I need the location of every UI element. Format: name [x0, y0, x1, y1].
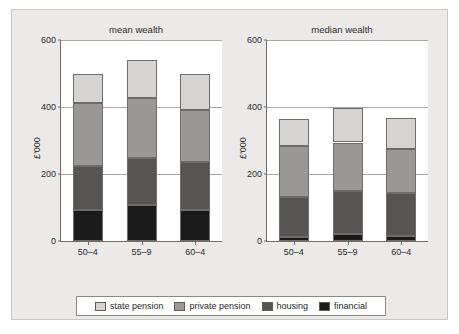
bar-stack [279, 40, 309, 241]
y-tick-label: 400 [41, 102, 56, 112]
legend-swatch-icon [174, 302, 185, 311]
bar-segment-state-pension [279, 119, 309, 146]
bar-segment-housing [386, 193, 416, 236]
bar-segment-state-pension [333, 108, 363, 143]
x-tick-mark [88, 241, 89, 245]
x-tick-mark [195, 241, 196, 245]
bar-stack [127, 40, 157, 241]
subplot-mean-wealth: mean wealth £'000 020040060050–455–960–4 [24, 22, 224, 274]
bar-segment-state-pension [127, 60, 157, 98]
legend-swatch-icon [262, 302, 273, 311]
x-tick-label: 55–9 [337, 247, 357, 257]
y-tick-label: 200 [247, 169, 262, 179]
legend-item[interactable]: housing [262, 301, 309, 311]
chart-figure: mean wealth £'000 020040060050–455–960–4… [11, 9, 448, 320]
y-tick-mark [264, 241, 268, 242]
bar-segment-private-pension [180, 110, 210, 162]
subplot-median-wealth: median wealth £'000 020040060050–455–960… [230, 22, 430, 274]
x-tick-label: 60–4 [391, 247, 411, 257]
bar-segment-private-pension [279, 146, 309, 198]
bar-stack [180, 40, 210, 241]
bar-segment-private-pension [127, 98, 157, 159]
x-tick-mark [348, 241, 349, 245]
y-tick-mark [58, 107, 62, 108]
y-axis-label-median: £'000 [238, 137, 248, 159]
bar-segment-state-pension [386, 118, 416, 149]
bar-segment-housing [73, 166, 103, 210]
legend-swatch-icon [319, 302, 330, 311]
legend-label: financial [334, 301, 367, 311]
plot-area-mean: 020040060050–455–960–4 [60, 40, 222, 242]
y-tick-mark [264, 107, 268, 108]
bar-segment-financial [127, 205, 157, 241]
bar-stack [73, 40, 103, 241]
y-tick-mark [264, 40, 268, 41]
bar-segment-financial [333, 234, 363, 241]
x-tick-label: 60–4 [185, 247, 205, 257]
bar-segment-private-pension [333, 143, 363, 192]
x-tick-mark [294, 241, 295, 245]
bar-segment-housing [127, 158, 157, 205]
legend-label: housing [277, 301, 309, 311]
y-tick-mark [264, 174, 268, 175]
legend-label: private pension [189, 301, 250, 311]
bar-stack [333, 40, 363, 241]
legend-item[interactable]: private pension [174, 301, 250, 311]
bar-segment-private-pension [386, 149, 416, 193]
bar-segment-state-pension [180, 74, 210, 111]
subplot-title-mean: mean wealth [48, 22, 224, 38]
legend-item[interactable]: state pension [95, 301, 164, 311]
bar-segment-private-pension [73, 103, 103, 166]
subplot-title-median: median wealth [254, 22, 430, 38]
y-tick-label: 0 [51, 236, 56, 246]
x-tick-mark [142, 241, 143, 245]
bar-segment-state-pension [73, 74, 103, 103]
x-tick-label: 55–9 [131, 247, 151, 257]
y-tick-label: 600 [247, 35, 262, 45]
x-tick-mark [401, 241, 402, 245]
legend-label: state pension [110, 301, 164, 311]
y-tick-label: 0 [257, 236, 262, 246]
bar-segment-housing [333, 191, 363, 234]
y-axis-label-mean: £'000 [32, 137, 42, 159]
bar-segment-housing [279, 197, 309, 236]
x-tick-label: 50–4 [78, 247, 98, 257]
y-tick-label: 400 [247, 102, 262, 112]
y-tick-mark [58, 174, 62, 175]
plot-area-median: 020040060050–455–960–4 [266, 40, 428, 242]
bar-segment-housing [180, 162, 210, 210]
x-tick-label: 50–4 [284, 247, 304, 257]
bar-stack [386, 40, 416, 241]
y-tick-mark [58, 40, 62, 41]
legend-item[interactable]: financial [319, 301, 367, 311]
y-tick-label: 600 [41, 35, 56, 45]
legend-swatch-icon [95, 302, 106, 311]
y-tick-label: 200 [41, 169, 56, 179]
bar-segment-financial [73, 210, 103, 241]
y-tick-mark [58, 241, 62, 242]
bar-segment-financial [180, 210, 210, 241]
chart-legend: state pensionprivate pensionhousingfinan… [76, 296, 386, 316]
